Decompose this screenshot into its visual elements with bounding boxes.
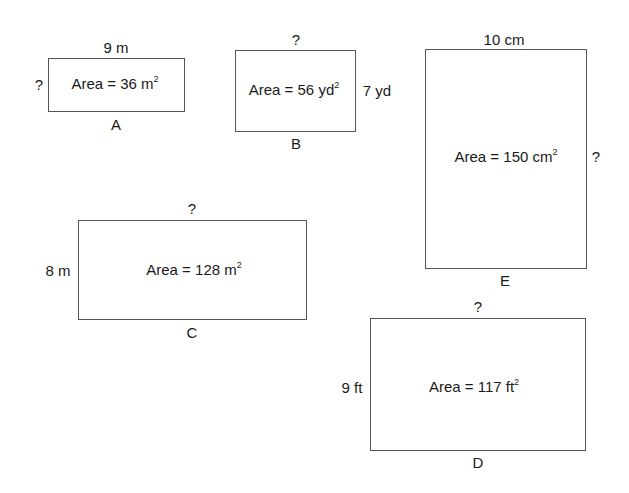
rectangle-b-right-side: 7 yd [363,83,391,99]
rectangle-e-area: Area = 150 cm2 [455,149,558,165]
area-exponent: 2 [237,260,242,270]
rectangle-b-top-side: ? [292,32,300,48]
area-text: Area = 117 ft [429,378,514,395]
rectangle-e-right-side: ? [592,149,600,165]
rectangle-e-top-side: 10 cm [484,32,525,48]
area-exponent: 2 [334,80,339,90]
rectangle-c-left-side: 8 m [45,263,70,279]
rectangle-a-top-side: 9 m [103,40,128,56]
rectangle-d-top-side: ? [474,299,482,315]
rectangle-a-label: A [111,117,121,133]
rectangle-d-label: D [473,455,484,471]
rectangle-a-area: Area = 36 m2 [71,76,158,92]
rectangle-c-top-side: ? [188,201,196,217]
area-exponent: 2 [552,147,557,157]
rectangle-b-label: B [291,136,301,152]
rectangle-d-area: Area = 117 ft2 [429,379,519,395]
area-text: Area = 128 m [146,261,236,278]
area-text: Area = 56 yd [249,81,334,98]
area-text: Area = 36 m [71,75,153,92]
rectangle-d-left-side: 9 ft [342,380,363,396]
rectangle-c-label: C [187,325,198,341]
area-exponent: 2 [514,377,519,387]
area-exponent: 2 [154,74,159,84]
rectangle-c-area: Area = 128 m2 [146,262,241,278]
rectangle-a-left-side: ? [35,77,43,93]
rectangle-e-label: E [500,273,510,289]
rectangle-b-area: Area = 56 yd2 [249,82,340,98]
area-text: Area = 150 cm [455,148,553,165]
